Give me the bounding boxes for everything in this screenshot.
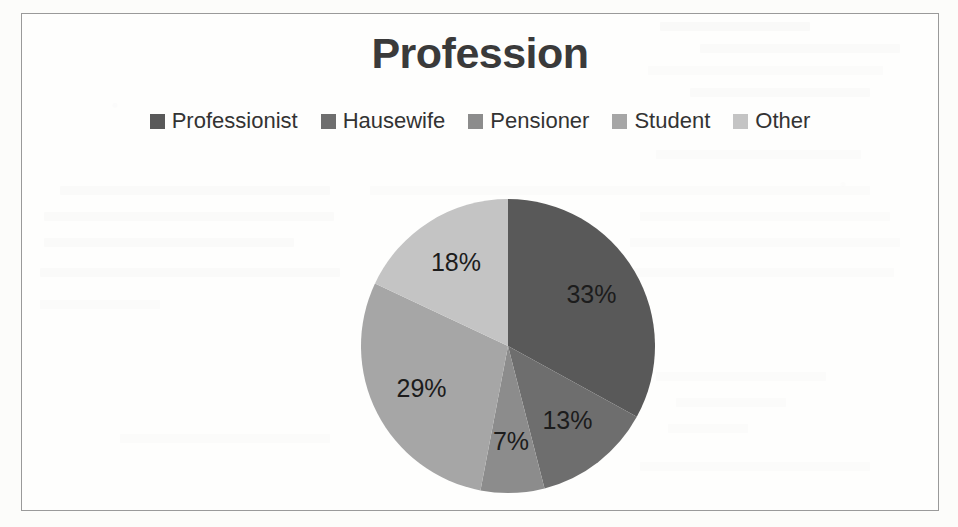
pie-data-label: 18% [431, 248, 481, 276]
legend-label: Other [755, 110, 810, 132]
legend-item-student[interactable]: Student [612, 110, 710, 132]
pie-data-label: 29% [397, 374, 447, 402]
legend-item-pensioner[interactable]: Pensioner [468, 110, 589, 132]
pie-data-label: 13% [542, 406, 592, 434]
pie-chart-svg: 33%13%7%29%18% [360, 198, 656, 494]
legend-item-other[interactable]: Other [733, 110, 810, 132]
legend-swatch-icon [150, 114, 165, 129]
chart-title: Profession [22, 32, 938, 75]
legend-item-professionist[interactable]: Professionist [150, 110, 298, 132]
chart-frame: Profession Professionist Hausewife Pensi… [21, 13, 939, 511]
legend-label: Hausewife [343, 110, 446, 132]
chart-legend: Professionist Hausewife Pensioner Studen… [22, 110, 938, 132]
legend-label: Pensioner [490, 110, 589, 132]
legend-label: Student [634, 110, 710, 132]
legend-item-hausewife[interactable]: Hausewife [321, 110, 446, 132]
pie-data-label: 33% [566, 280, 616, 308]
legend-swatch-icon [612, 114, 627, 129]
legend-swatch-icon [468, 114, 483, 129]
pie-data-label: 7% [493, 427, 529, 455]
legend-label: Professionist [172, 110, 298, 132]
legend-swatch-icon [733, 114, 748, 129]
legend-swatch-icon [321, 114, 336, 129]
pie-chart: 33%13%7%29%18% [360, 198, 656, 494]
